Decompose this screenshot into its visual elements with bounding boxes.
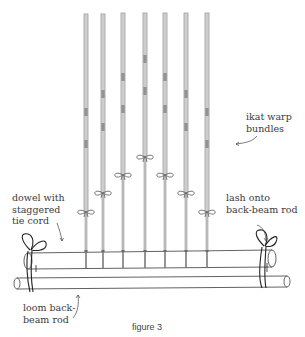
warp-bundle — [95, 14, 111, 268]
label-back-beam-rod: loom back- beam rod — [23, 302, 75, 325]
warp-bundle — [178, 13, 194, 268]
dowel-rod — [24, 250, 276, 269]
warp-bundle — [137, 13, 153, 268]
warp-bundle — [115, 13, 131, 268]
warp-bundle — [78, 14, 94, 268]
figure-caption: figure 3 — [132, 322, 162, 332]
warp-bundle — [157, 13, 173, 268]
arrow-icon — [57, 136, 268, 318]
back-beam-rod — [14, 276, 290, 289]
label-ikat-warp-bundles: ikat warp bundles — [246, 111, 292, 134]
label-lash: lash onto back-beam rod — [226, 192, 298, 215]
loom-diagram — [0, 0, 305, 337]
warp-bundles-group — [78, 13, 215, 268]
label-dowel: dowel with staggered tie cord — [12, 192, 65, 227]
warp-bundle — [199, 13, 215, 268]
